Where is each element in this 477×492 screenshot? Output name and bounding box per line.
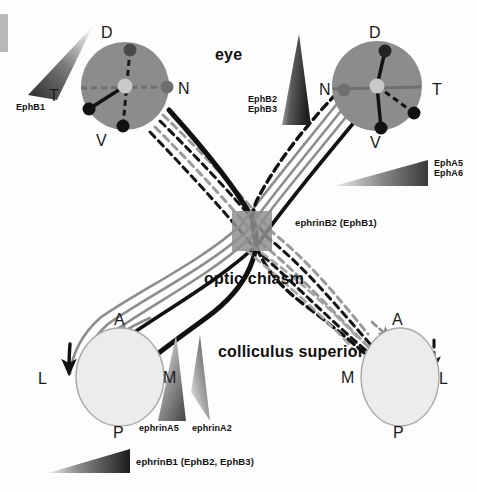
left-retina-label-nasal: N bbox=[178, 80, 190, 97]
right-colliculus-label-medial: M bbox=[341, 369, 354, 386]
right-colliculus-label-anterior: A bbox=[392, 311, 403, 328]
figure-canvas: eye optic chiasm colliculus superior D V… bbox=[0, 0, 477, 492]
right-retina-label-temporal: T bbox=[432, 81, 442, 98]
left-colliculus-label-posterior: P bbox=[113, 424, 124, 441]
right-retina-label-dorsal: D bbox=[369, 24, 381, 41]
optic-chiasm-square bbox=[232, 211, 272, 251]
left-edge-bar bbox=[0, 14, 8, 52]
right-colliculus-label-lateral: L bbox=[439, 370, 448, 387]
left-colliculus-label-lateral: L bbox=[38, 370, 47, 387]
left-retina-label-ventral: V bbox=[96, 132, 107, 149]
page-title-eye: eye bbox=[215, 46, 242, 63]
left-colliculus-label-medial: M bbox=[163, 369, 176, 386]
left-retina bbox=[81, 42, 174, 133]
ephb2-ephb3-label: EphB2 EphB3 bbox=[248, 95, 277, 114]
left-colliculus-label-anterior: A bbox=[114, 311, 125, 328]
epha5-epha6-label: EphA5 EphA6 bbox=[434, 159, 463, 178]
ephrinb1-gradient-triangle bbox=[48, 449, 130, 473]
ephrinb2-label: ephrinB2 (EphB1) bbox=[295, 218, 377, 228]
right-retina-label-nasal: N bbox=[319, 81, 331, 98]
left-coll-arrow-L bbox=[69, 344, 70, 372]
right-superior-colliculus bbox=[361, 328, 439, 426]
epha5-epha6-gradient-triangle bbox=[334, 160, 428, 186]
label-optic-chiasm: optic chiasm bbox=[204, 270, 304, 287]
right-retina-label-ventral: V bbox=[370, 134, 381, 151]
ephb1-label: EphB1 bbox=[16, 103, 45, 113]
left-retina-label-temporal: T bbox=[49, 87, 59, 104]
ephrina2-label: ephrinA2 bbox=[192, 424, 232, 434]
right-colliculus-label-posterior: P bbox=[393, 424, 404, 441]
right-retina bbox=[332, 41, 422, 135]
left-retina-label-dorsal: D bbox=[101, 24, 113, 41]
retinotectal-projection-diagram bbox=[0, 0, 477, 492]
label-colliculus-superior: colliculus superior bbox=[218, 343, 364, 360]
ephb2-ephb3-gradient-triangle bbox=[282, 34, 311, 125]
ephrina2-gradient-triangle bbox=[191, 335, 210, 421]
ephrina5-label: ephrinA5 bbox=[139, 424, 179, 434]
left-superior-colliculus bbox=[76, 328, 164, 426]
ephrinb1-label: ephrinB1 (EphB2, EphB3) bbox=[136, 457, 254, 467]
